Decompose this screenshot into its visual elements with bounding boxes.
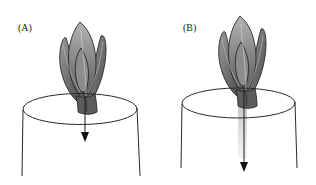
panel-b <box>181 16 297 172</box>
stem-a <box>22 108 140 176</box>
panel-label-a: (A) <box>18 23 32 33</box>
panel-label-b: (B) <box>183 23 196 33</box>
figure: (A) (B) <box>0 0 316 185</box>
shoot-apex-b <box>219 16 266 108</box>
transport-band-b <box>238 100 247 158</box>
panel-a <box>22 22 140 176</box>
shoot-apex-a <box>60 22 106 114</box>
diagram-canvas <box>0 0 316 185</box>
